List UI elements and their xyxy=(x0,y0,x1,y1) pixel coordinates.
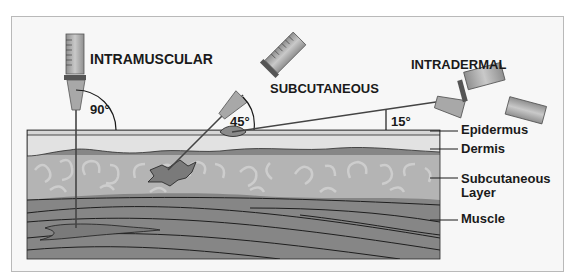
label-subcutaneous-line1: Subcutaneous xyxy=(461,172,551,186)
label-subcutaneous-layer: Subcutaneous Layer xyxy=(461,172,551,200)
label-subcutaneous: SUBCUTANEOUS xyxy=(270,82,379,96)
label-intramuscular: INTRAMUSCULAR xyxy=(90,52,213,66)
skin-block xyxy=(27,130,440,259)
angle-90: 90° xyxy=(90,102,110,117)
angle-45: 45° xyxy=(230,114,250,129)
angle-15: 15° xyxy=(391,114,411,129)
label-intradermal: INTRADERMAL xyxy=(411,58,506,72)
label-muscle: Muscle xyxy=(461,212,505,226)
label-epidermus: Epidermus xyxy=(461,123,528,137)
injection-diagram xyxy=(0,0,575,280)
label-subcutaneous-line2: Layer xyxy=(461,186,551,200)
label-dermis: Dermis xyxy=(461,142,505,156)
